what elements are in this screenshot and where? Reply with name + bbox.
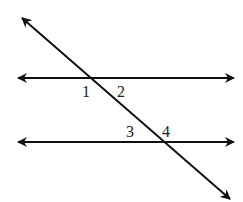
angle-label-1: 1 bbox=[82, 84, 90, 100]
angle-label-3: 3 bbox=[126, 124, 134, 140]
angle-label-4: 4 bbox=[162, 124, 170, 140]
parallel-lines-diagram: 1 2 3 4 bbox=[0, 0, 243, 202]
transversal-line bbox=[22, 18, 230, 199]
angle-label-2: 2 bbox=[117, 84, 125, 100]
diagram-lines bbox=[0, 0, 243, 202]
